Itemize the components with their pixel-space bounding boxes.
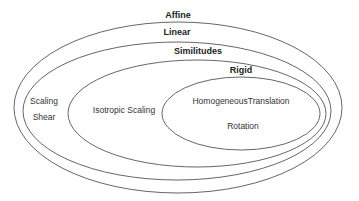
diagram-svg: Affine Linear Similitudes Rigid Scaling …: [0, 0, 359, 201]
rigid-set-ellipse: [162, 77, 320, 150]
rotation-member-label: Rotation: [227, 121, 259, 131]
rigid-set-label: Rigid: [230, 65, 253, 75]
affine-set-label: Affine: [165, 10, 191, 20]
transformation-hierarchy-diagram: Affine Linear Similitudes Rigid Scaling …: [0, 0, 359, 201]
shear-member-label: Shear: [33, 112, 56, 122]
linear-set-label: Linear: [163, 27, 191, 37]
similitudes-set-label: Similitudes: [174, 46, 222, 56]
scaling-member-label: Scaling: [30, 96, 58, 106]
homogeneous-translation-member-label: HomogeneousTranslation: [192, 96, 289, 106]
isotropic-scaling-member-label: Isotropic Scaling: [93, 105, 156, 115]
linear-set-ellipse: [23, 42, 331, 180]
